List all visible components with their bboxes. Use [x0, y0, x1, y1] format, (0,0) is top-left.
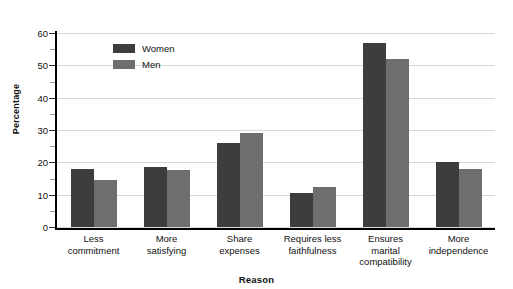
bar-women-5 [436, 162, 459, 227]
bar-women-1 [144, 167, 167, 227]
legend-swatch-men [113, 60, 135, 69]
y-tick-label: 20 [18, 157, 48, 168]
bar-women-4 [363, 43, 386, 227]
legend-item-men: Men [113, 58, 175, 71]
y-tick-label: 10 [18, 189, 48, 200]
x-tick-label-5: Moreindependence [416, 233, 501, 256]
y-tick-label: 60 [18, 28, 48, 39]
legend-label-men: Men [142, 59, 160, 70]
gridline [57, 227, 495, 228]
y-tick-label: 40 [18, 92, 48, 103]
bar-women-3 [290, 193, 313, 227]
gridline [57, 130, 495, 131]
legend-item-women: Women [113, 42, 175, 55]
y-tick-label: 0 [18, 222, 48, 233]
x-tick-label-line: compatibility [343, 256, 428, 268]
bar-men-2 [240, 133, 263, 227]
chart-legend: WomenMen [113, 42, 175, 74]
x-axis-title: Reason [0, 274, 513, 285]
gridline [57, 195, 495, 196]
gridline [57, 98, 495, 99]
bar-men-1 [167, 170, 190, 227]
y-tick-label: 50 [18, 60, 48, 71]
legend-swatch-women [113, 44, 135, 53]
bar-men-5 [459, 169, 482, 227]
bar-chart-figure: Percentage 0102030405060 LesscommitmentM… [0, 0, 513, 289]
bar-women-0 [71, 169, 94, 227]
y-axis-title: Percentage [11, 69, 21, 149]
bar-men-3 [313, 187, 336, 227]
gridline [57, 33, 495, 34]
y-tick-label: 30 [18, 125, 48, 136]
gridline [57, 162, 495, 163]
legend-label-women: Women [142, 43, 175, 54]
bar-men-0 [94, 180, 117, 227]
x-tick-label-line: independence [416, 245, 501, 257]
x-tick-label-line: More [416, 233, 501, 245]
bar-men-4 [386, 59, 409, 227]
bar-women-2 [217, 143, 240, 227]
